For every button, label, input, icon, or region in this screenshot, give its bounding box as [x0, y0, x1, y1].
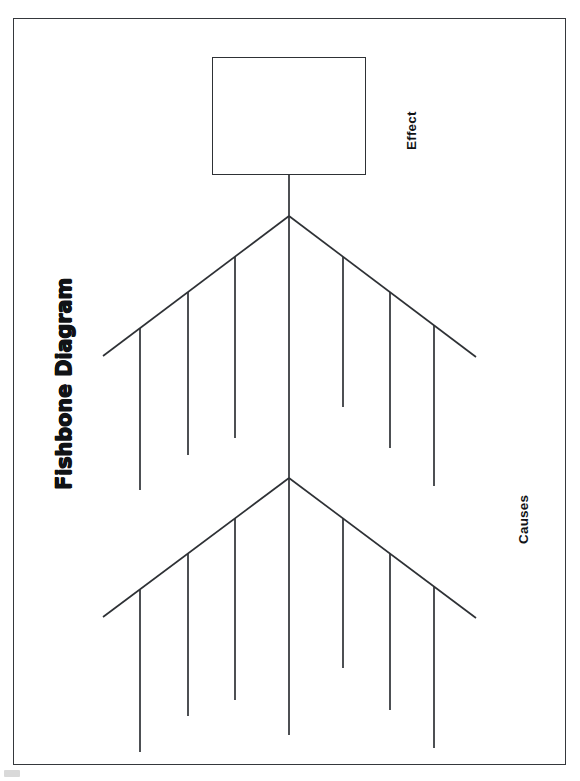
- page-title: Fishbone Diagram: [52, 278, 76, 490]
- causes-label: Causes: [516, 495, 531, 544]
- worksheet-page: Fishbone Diagram Effect Causes: [0, 0, 580, 781]
- rib-lower-right: [289, 478, 476, 618]
- rib-lower-left: [103, 478, 289, 617]
- effect-label: Effect: [404, 111, 419, 150]
- rib-upper-left: [103, 216, 289, 356]
- effect-box[interactable]: [212, 57, 366, 175]
- rib-upper-right: [289, 216, 476, 357]
